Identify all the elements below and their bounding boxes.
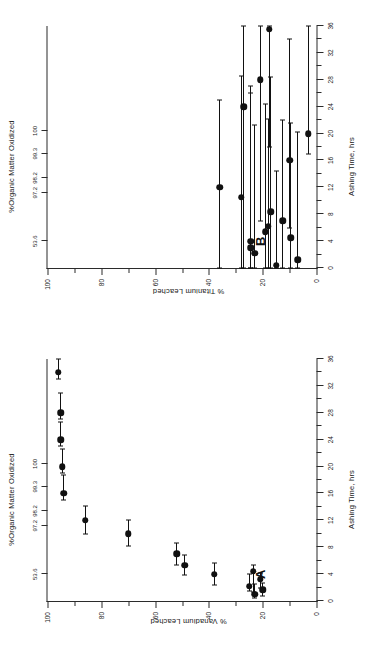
x-tick-label: 36: [326, 22, 333, 29]
data-point: [266, 26, 273, 33]
top-axis-tick: [41, 240, 47, 241]
x-tick: [316, 492, 323, 493]
x-tick-minor: [316, 38, 321, 39]
y-tick: [316, 601, 317, 608]
error-bar: [282, 120, 283, 268]
y-tick: [208, 601, 209, 608]
y-tick-label: 100: [44, 612, 51, 623]
top-axis-tick-label: 100: [31, 459, 37, 469]
x-tick: [316, 159, 323, 160]
y-tick: [47, 268, 48, 275]
figure-canvas: %Organic Matter Oxidized Ashing Time, hr…: [0, 0, 375, 666]
error-bar: [268, 26, 269, 147]
y-tick-minor: [182, 268, 183, 273]
error-bar-cap: [248, 268, 253, 269]
y-tick: [47, 601, 48, 608]
data-point: [247, 238, 254, 245]
x-tick-label: 0: [326, 266, 333, 270]
data-point: [279, 218, 286, 225]
x-tick-label: 0: [326, 599, 333, 603]
top-axis-tick: [41, 463, 47, 464]
y-tick-minor: [235, 601, 236, 606]
panel-a: %Organic Matter Oxidized Ashing Time, hr…: [0, 333, 375, 666]
error-bar: [297, 132, 298, 268]
x-tick-label: 4: [326, 239, 333, 243]
data-point: [57, 410, 64, 417]
y-tick-label: 20: [259, 279, 266, 286]
top-axis-tick: [41, 525, 47, 526]
panel-b-plot-area: B 0481216202428323602040608010053.697.29…: [46, 26, 317, 269]
x-tick: [316, 412, 323, 413]
top-axis-tick: [41, 510, 47, 511]
y-tick: [262, 268, 263, 275]
error-bar-cap: [59, 473, 64, 474]
top-axis-tick-label: 53.6: [31, 568, 37, 580]
top-axis-tick: [41, 486, 47, 487]
x-tick-label: 20: [326, 463, 333, 470]
x-tick-minor: [316, 398, 321, 399]
error-bar-cap: [248, 86, 253, 87]
top-axis-tick: [41, 153, 47, 154]
error-bar-cap: [266, 147, 271, 148]
data-point: [250, 568, 257, 575]
error-bar-cap: [182, 555, 187, 556]
x-tick-minor: [316, 371, 321, 372]
x-tick: [316, 546, 323, 547]
panel-b-top-axis-title: %Organic Matter Oxidized: [6, 0, 15, 333]
x-tick-label: 16: [326, 157, 333, 164]
top-axis-tick: [41, 573, 47, 574]
error-bar-cap: [257, 26, 262, 27]
data-point: [246, 583, 253, 590]
panel-a-plot-area: A 0481216202428323602040608010053.697.29…: [46, 359, 317, 602]
error-bar-cap: [250, 591, 255, 592]
x-tick-label: 28: [326, 409, 333, 416]
x-tick: [316, 133, 323, 134]
x-tick-minor: [316, 560, 321, 561]
x-tick-minor: [316, 119, 321, 120]
x-tick-minor: [316, 452, 321, 453]
error-bar-cap: [295, 268, 300, 269]
top-axis-tick: [41, 192, 47, 193]
y-tick-label: 40: [205, 279, 212, 286]
data-point: [60, 490, 67, 497]
x-tick: [316, 25, 323, 26]
error-bar-cap: [125, 545, 130, 546]
error-bar: [264, 104, 265, 268]
error-bar-cap: [287, 39, 292, 40]
error-bar-cap: [211, 562, 216, 563]
y-tick-minor: [74, 601, 75, 606]
error-bar-cap: [305, 153, 310, 154]
x-tick-label: 16: [326, 490, 333, 497]
data-point: [267, 208, 274, 215]
x-tick: [316, 79, 323, 80]
error-bar-cap: [58, 419, 63, 420]
error-bar-cap: [252, 125, 257, 126]
data-point: [211, 571, 218, 578]
x-tick: [316, 385, 323, 386]
error-bar-cap: [287, 227, 292, 228]
error-bar: [267, 119, 268, 268]
y-tick: [155, 268, 156, 275]
top-axis-tick: [41, 177, 47, 178]
y-tick-label: 80: [97, 612, 104, 619]
two-panel-figure: %Organic Matter Oxidized Ashing Time, hr…: [0, 0, 375, 666]
x-tick: [316, 358, 323, 359]
error-bar-cap: [174, 564, 179, 565]
y-tick: [262, 601, 263, 608]
top-axis-tick-label: 98.2: [31, 505, 37, 517]
x-tick-label: 32: [326, 49, 333, 56]
error-bar-cap: [217, 268, 222, 269]
x-tick-label: 12: [326, 517, 333, 524]
top-axis-tick-label: 53.6: [31, 235, 37, 247]
error-bar: [243, 26, 244, 268]
top-axis-tick-label: 97.2: [31, 520, 37, 532]
error-bar-cap: [252, 598, 257, 599]
error-bar-cap: [257, 587, 262, 588]
data-point: [294, 257, 301, 264]
error-bar: [275, 171, 276, 268]
error-bar-cap: [125, 520, 130, 521]
x-tick-label: 20: [326, 130, 333, 137]
x-tick-label: 24: [326, 103, 333, 110]
y-tick-minor: [74, 268, 75, 273]
data-point: [81, 517, 88, 524]
